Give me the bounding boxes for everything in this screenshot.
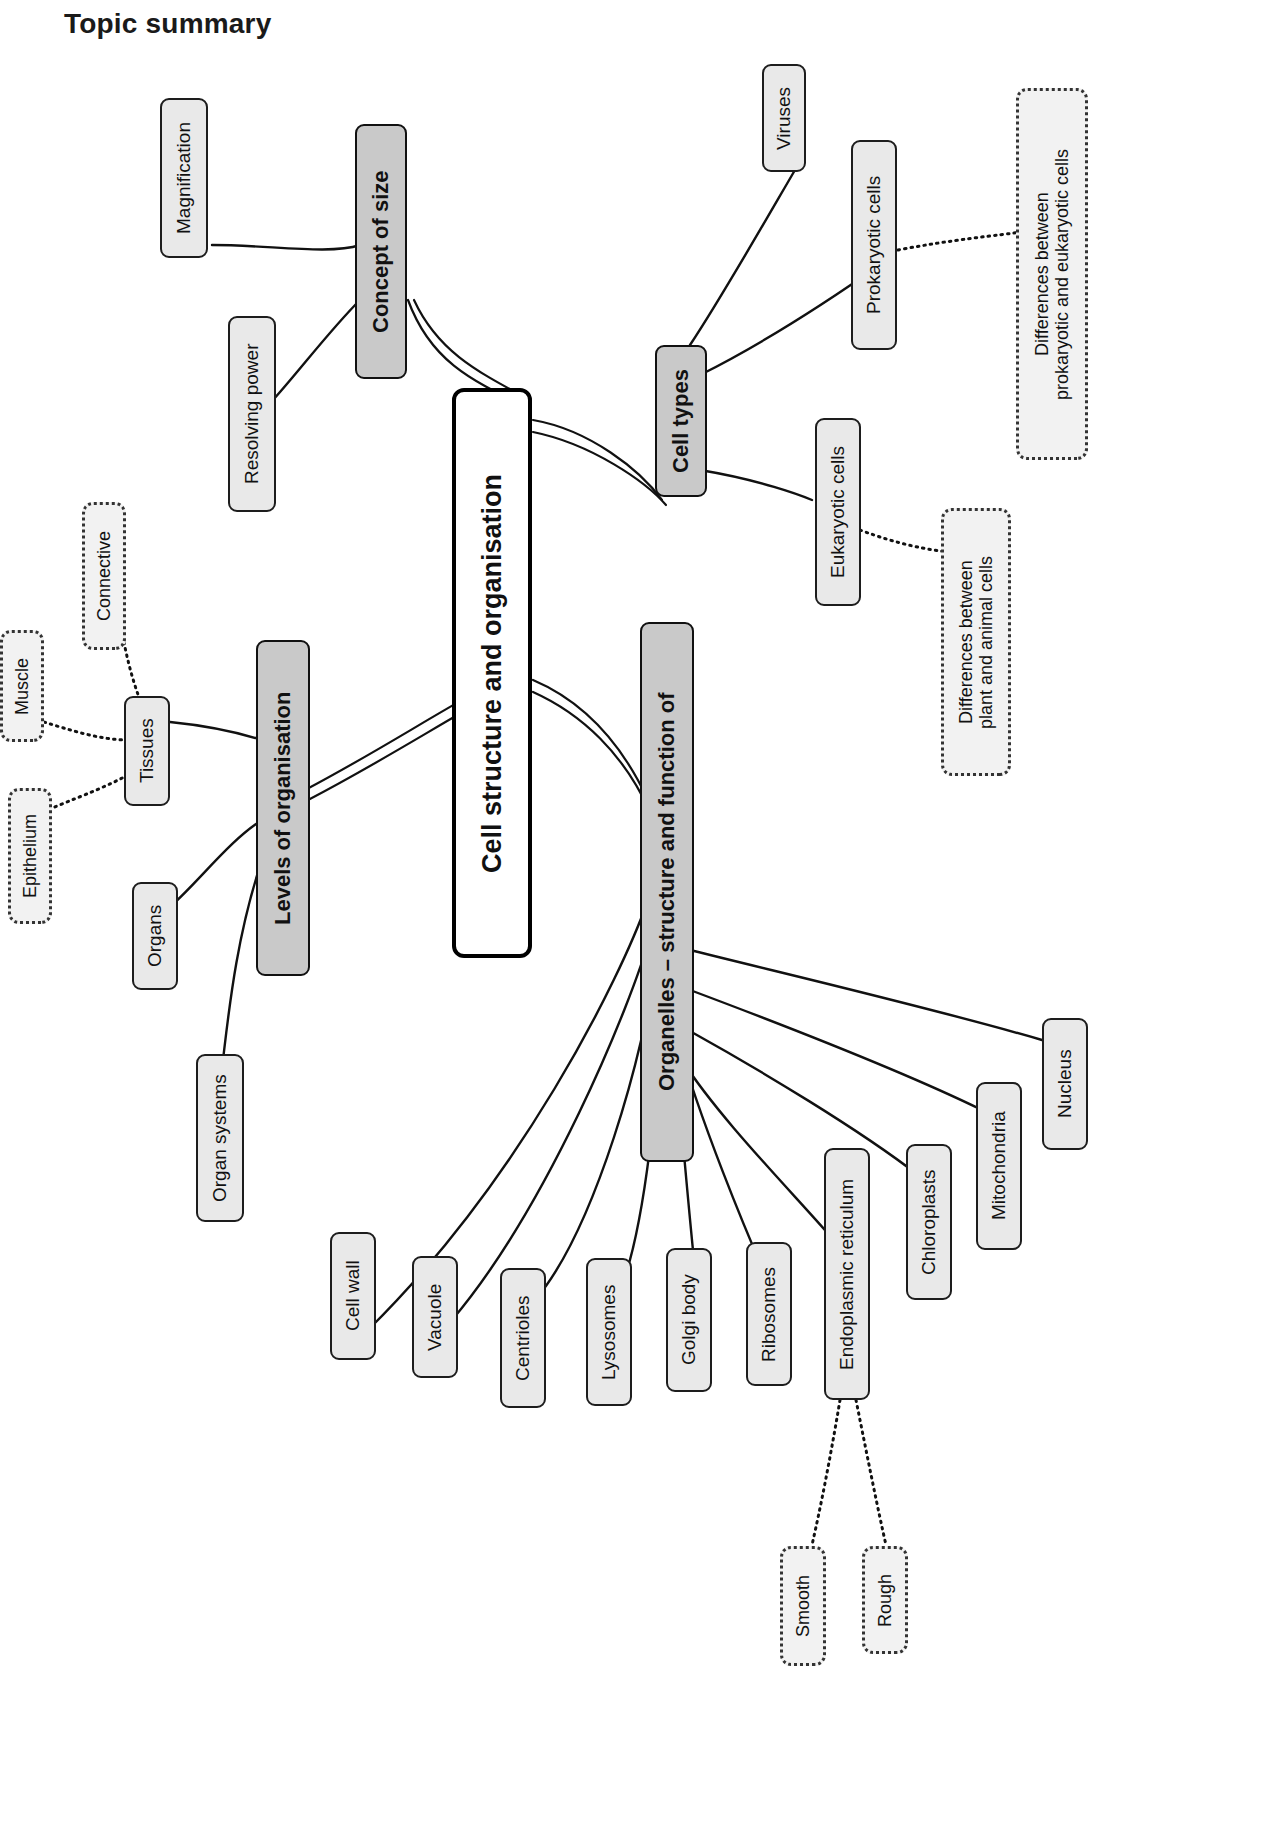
node-dotted-differences-prokaryotic-eukaryotic[interactable]: Differences between prokaryotic and euka… (1016, 88, 1088, 460)
node-leaf-centrioles[interactable]: Centrioles (500, 1268, 546, 1408)
node-leaf-lysosomes[interactable]: Lysosomes (586, 1258, 632, 1406)
node-dotted-smooth[interactable]: Smooth (780, 1546, 826, 1666)
node-leaf-resolving-power[interactable]: Resolving power (228, 316, 276, 512)
node-leaf-golgi-body[interactable]: Golgi body (666, 1248, 712, 1392)
mindmap-canvas: Cell structure and organisation Concept … (0, 0, 1279, 1823)
node-leaf-magnification[interactable]: Magnification (160, 98, 208, 258)
node-dotted-epithelium[interactable]: Epithelium (8, 788, 52, 924)
node-leaf-prokaryotic-cells[interactable]: Prokaryotic cells (851, 140, 897, 350)
node-leaf-viruses[interactable]: Viruses (762, 64, 806, 172)
node-leaf-organ-systems[interactable]: Organ systems (196, 1054, 244, 1222)
node-branch-organelles-structure-and-function[interactable]: Organelles – structure and function of (640, 622, 694, 1162)
node-leaf-tissues[interactable]: Tissues (124, 696, 170, 806)
node-leaf-ribosomes[interactable]: Ribosomes (746, 1242, 792, 1386)
node-leaf-vacuole[interactable]: Vacuole (412, 1256, 458, 1378)
node-leaf-nucleus[interactable]: Nucleus (1042, 1018, 1088, 1150)
node-leaf-eukaryotic-cells[interactable]: Eukaryotic cells (815, 418, 861, 606)
node-leaf-endoplasmic-reticulum[interactable]: Endoplasmic reticulum (824, 1148, 870, 1400)
node-dotted-rough[interactable]: Rough (862, 1546, 908, 1654)
node-dotted-connective[interactable]: Connective (82, 502, 126, 650)
node-dotted-differences-plant-animal[interactable]: Differences between plant and animal cel… (941, 508, 1011, 776)
node-branch-cell-types[interactable]: Cell types (655, 345, 707, 497)
node-leaf-mitochondria[interactable]: Mitochondria (976, 1082, 1022, 1250)
node-root-cell-structure-and-organisation[interactable]: Cell structure and organisation (452, 388, 532, 958)
node-branch-concept-of-size[interactable]: Concept of size (355, 124, 407, 379)
node-leaf-chloroplasts[interactable]: Chloroplasts (906, 1144, 952, 1300)
node-leaf-organs[interactable]: Organs (132, 882, 178, 990)
node-dotted-muscle[interactable]: Muscle (0, 630, 44, 742)
node-leaf-cell-wall[interactable]: Cell wall (330, 1232, 376, 1360)
node-branch-levels-of-organisation[interactable]: Levels of organisation (256, 640, 310, 976)
